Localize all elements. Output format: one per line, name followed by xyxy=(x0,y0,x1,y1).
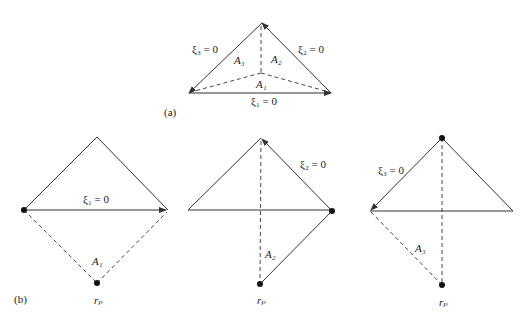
edge-xi2 xyxy=(262,139,332,211)
label-xi3: ξ₃ = 0 xyxy=(192,43,218,56)
label-A1: A₁ xyxy=(91,255,103,267)
dashed-line xyxy=(261,73,329,92)
dashed-line xyxy=(191,73,261,92)
point-rp-dot xyxy=(439,282,445,288)
dashed-line xyxy=(371,212,442,285)
caption-a: (a) xyxy=(164,106,177,119)
panel-a: ξ₃ = 0 ξ₂ = 0 ξ₁ = 0 A₃ A₂ A₁ (a) xyxy=(164,23,331,119)
label-A3: A₃ xyxy=(233,54,245,66)
triangle-area-coordinates-diagram: ξ₃ = 0 ξ₂ = 0 ξ₁ = 0 A₃ A₂ A₁ (a) ξ₁ = 0… xyxy=(0,0,530,319)
label-A2: A₂ xyxy=(264,248,276,260)
label-xi1: ξ₁ = 0 xyxy=(83,193,109,206)
label-xi3: ξ₃ = 0 xyxy=(378,164,404,177)
label-rp: rₚ xyxy=(257,294,266,306)
label-xi2: ξ₂ = 0 xyxy=(298,43,324,56)
label-A3: A₃ xyxy=(414,242,426,254)
label-rp: rₚ xyxy=(94,294,103,306)
label-A1: A₁ xyxy=(255,78,267,90)
caption-b: (b) xyxy=(14,293,27,306)
label-xi1: ξ₁ = 0 xyxy=(251,95,277,108)
node-dot xyxy=(21,207,27,213)
label-A2: A₂ xyxy=(270,53,282,65)
dashed-line xyxy=(260,141,261,284)
point-rp-dot xyxy=(94,280,100,286)
panel-b-2: ξ₂ = 0 A₂ rₚ xyxy=(188,138,335,306)
dashed-line xyxy=(97,212,167,283)
panel-b-1: ξ₁ = 0 A₁ rₚ (b) xyxy=(14,137,168,306)
node-dot xyxy=(439,135,445,141)
dashed-line xyxy=(24,210,97,283)
node-dot xyxy=(329,208,335,214)
panel-b-3: ξ₃ = 0 A₃ rₚ xyxy=(370,135,513,308)
label-xi2: ξ₂ = 0 xyxy=(300,158,326,171)
label-rp: rₚ xyxy=(439,296,448,308)
point-rp-dot xyxy=(257,281,263,287)
